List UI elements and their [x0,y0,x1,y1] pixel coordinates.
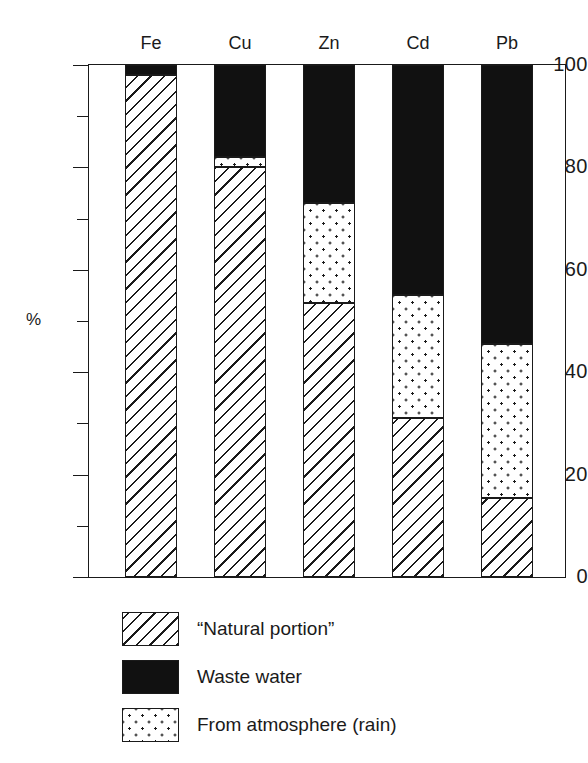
bar-segment [481,344,533,498]
plot-right-border [565,64,566,578]
bar-segment [392,418,444,577]
bar-cd[interactable] [392,65,444,577]
y-tick-major [73,577,89,578]
category-label-pb: Pb [481,33,533,53]
bar-segment [481,65,533,344]
category-label-cd: Cd [392,33,444,53]
y-tick-major [73,65,89,66]
legend-swatch [122,708,179,742]
bar-segment [125,65,177,75]
y-tick-major [73,167,89,168]
legend-label: “Natural portion” [197,612,334,646]
bar-segment [214,157,266,167]
bar-segment [303,303,355,577]
bar-segment [214,65,266,157]
bar-segment [392,65,444,295]
x-axis-line [88,577,566,578]
bar-fe[interactable] [125,65,177,577]
y-axis-title: % [26,310,41,330]
y-tick-major [73,372,89,373]
bar-segment [125,75,177,577]
legend-swatch [122,660,179,694]
category-label-zn: Zn [303,33,355,53]
category-label-fe: Fe [125,33,177,53]
bar-segment [303,203,355,303]
legend-label: Waste water [197,660,302,694]
chart-figure: % 020406080100 FeCuZnCdPb “Natural porti… [0,0,588,763]
bar-zn[interactable] [303,65,355,577]
legend-swatch [122,612,179,646]
legend-label: From atmosphere (rain) [197,708,397,742]
bar-segment [481,498,533,577]
category-label-cu: Cu [214,33,266,53]
bar-pb[interactable] [481,65,533,577]
y-tick-major [73,475,89,476]
bar-segment [214,167,266,577]
bar-segment [392,295,444,418]
bar-cu[interactable] [214,65,266,577]
bar-segment [303,65,355,203]
plot-area [88,65,565,577]
y-tick-major [73,270,89,271]
